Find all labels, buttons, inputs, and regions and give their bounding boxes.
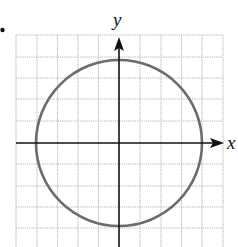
- y-axis-label: y: [111, 9, 122, 30]
- axes: [16, 46, 214, 247]
- circle-graph: x y: [0, 0, 238, 247]
- bullet-marker: [0, 28, 4, 32]
- x-axis-label: x: [226, 132, 236, 153]
